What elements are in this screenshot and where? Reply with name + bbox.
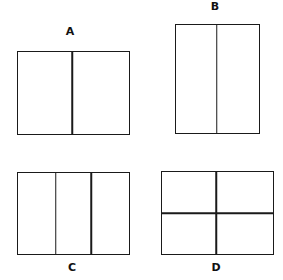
panel-c-label: C: [68, 262, 76, 274]
panel-b-rectangle: [175, 24, 260, 134]
panel-d-label: D: [211, 262, 220, 274]
panel-a-label: A: [66, 26, 75, 38]
panel-a-rectangle: [17, 51, 130, 135]
panel-a-divider-vertical: [72, 52, 74, 134]
panel-d-rectangle: [161, 171, 274, 255]
panel-d-divider-horizontal: [162, 212, 273, 214]
panel-c-divider-vertical-2: [91, 173, 93, 254]
panel-c-rectangle: [17, 172, 130, 255]
panel-c-divider-vertical-1: [55, 173, 57, 254]
panel-b-label: B: [211, 1, 219, 13]
panel-b-divider-vertical: [216, 25, 218, 133]
